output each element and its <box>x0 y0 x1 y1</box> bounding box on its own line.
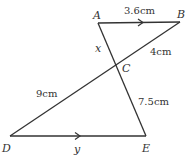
segment-ae <box>98 23 146 136</box>
label-e: E <box>141 142 150 155</box>
similar-triangles-diagram: A B C D E 3.6cm 4cm x 9cm 7.5cm y <box>0 0 190 168</box>
label-c: C <box>122 62 131 75</box>
label-b: B <box>176 8 185 21</box>
segment-bd <box>10 22 180 136</box>
label-cd-length: 9cm <box>36 88 58 99</box>
label-a: A <box>92 9 101 22</box>
label-d: D <box>1 142 11 155</box>
label-ce-length: 7.5cm <box>138 96 170 107</box>
label-de-y: y <box>73 143 81 156</box>
label-bc-length: 4cm <box>150 46 172 57</box>
label-ac-x: x <box>95 42 102 55</box>
label-ab-length: 3.6cm <box>124 5 156 16</box>
segment-ab <box>98 22 180 23</box>
